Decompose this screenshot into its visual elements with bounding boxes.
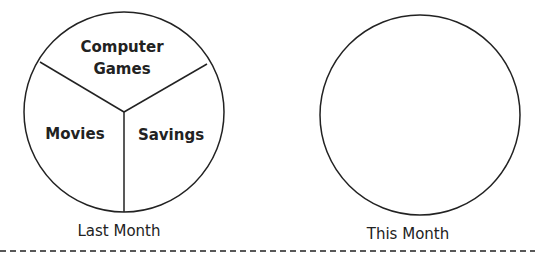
this-month-pie: This Month bbox=[320, 15, 520, 243]
this-month-circle bbox=[320, 15, 520, 215]
slice-label-computer-line2: Games bbox=[93, 60, 150, 78]
last-month-caption: Last Month bbox=[77, 222, 160, 240]
this-month-caption: This Month bbox=[366, 225, 449, 243]
last-month-pie: Computer Games Movies Savings Last Month bbox=[24, 12, 224, 240]
slice-label-computer-line1: Computer bbox=[80, 38, 164, 56]
slice-label-savings: Savings bbox=[138, 126, 204, 144]
slice-label-movies: Movies bbox=[45, 125, 104, 143]
pie-charts-canvas: Computer Games Movies Savings Last Month… bbox=[0, 0, 535, 257]
